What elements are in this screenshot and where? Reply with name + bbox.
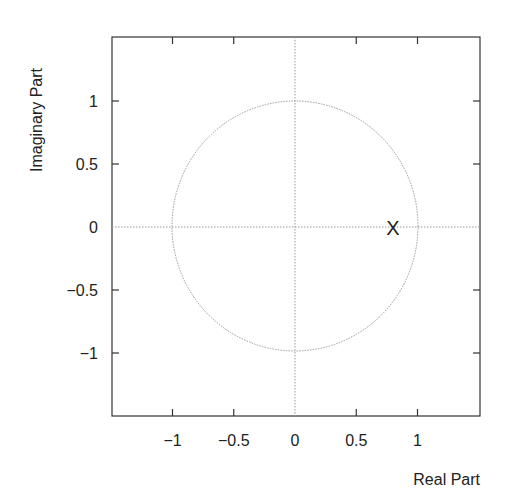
x-tick-label: 1 — [413, 432, 422, 449]
x-tick-label: 0 — [291, 432, 300, 449]
x-axis-label: Real Part — [413, 471, 480, 488]
x-tick-label: 0.5 — [345, 432, 367, 449]
y-tick-label: 0 — [89, 219, 98, 236]
x-tick-label: −0.5 — [218, 432, 250, 449]
y-tick-label: 1 — [89, 93, 98, 110]
y-tick-label: −0.5 — [66, 282, 98, 299]
pole-marker-x: X — [386, 217, 399, 239]
y-tick-label: −1 — [80, 345, 98, 362]
y-axis-label: Imaginary Part — [28, 67, 45, 172]
y-tick-label: 0.5 — [76, 156, 98, 173]
axis-tick-labels: −1−0.500.5110.50−0.5−1 — [66, 93, 422, 449]
x-tick-label: −1 — [163, 432, 181, 449]
pole-zero-plot: −1−0.500.5110.50−0.5−1 X Real Part Imagi… — [0, 0, 505, 504]
